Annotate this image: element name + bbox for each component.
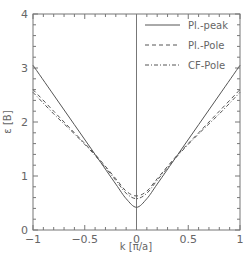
- x-tick-label: 1: [237, 233, 244, 246]
- y-axis-label: ε [B]: [2, 110, 13, 133]
- x-tick-label: 0.5: [180, 233, 198, 246]
- y-tick-label: 2: [21, 116, 28, 129]
- y-tick-label: 0: [21, 224, 28, 237]
- x-axis-label: k [π/a]: [120, 241, 152, 252]
- x-tick-label: −0.5: [71, 233, 98, 246]
- legend-label: Pl.-Pole: [188, 40, 224, 51]
- legend-label: Pl.-peak: [188, 20, 228, 31]
- y-tick-label: 4: [21, 8, 28, 21]
- y-tick-label: 3: [21, 62, 28, 75]
- legend: Pl.-peakPl.-PoleCF-Pole: [145, 20, 228, 71]
- y-tick-label: 1: [21, 170, 28, 183]
- chart: −1−0.500.5101234 Pl.-peakPl.-PoleCF-Pole…: [0, 0, 252, 267]
- legend-label: CF-Pole: [188, 60, 225, 71]
